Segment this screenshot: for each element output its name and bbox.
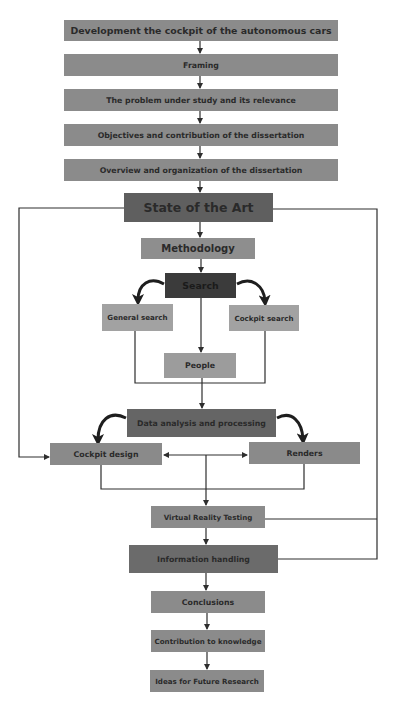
node-information-handling: Information handling <box>129 545 278 573</box>
node-ideas: Ideas for Future Research <box>150 670 264 692</box>
node-cockpit-design: Cockpit design <box>50 443 162 465</box>
node-objectives: Objectives and contribution of the disse… <box>64 124 338 146</box>
node-methodology: Methodology <box>141 238 255 259</box>
node-general-search: General search <box>102 304 173 331</box>
node-renders: Renders <box>249 442 360 464</box>
node-development: Development the cockpit of the autonomou… <box>64 20 338 41</box>
node-data-analysis: Data analysis and processing <box>127 409 276 437</box>
node-framing: Framing <box>64 54 338 76</box>
node-contribution: Contribution to knowledge <box>151 630 265 652</box>
node-overview: Overview and organization of the dissert… <box>64 159 338 181</box>
node-search: Search <box>165 273 236 298</box>
node-cockpit-search: Cockpit search <box>229 305 299 331</box>
node-conclusions: Conclusions <box>151 591 265 613</box>
node-state-of-the-art: State of the Art <box>124 193 273 222</box>
node-vr-testing: Virtual Reality Testing <box>151 506 265 528</box>
node-people: People <box>164 353 236 378</box>
node-problem: The problem under study and its relevanc… <box>64 89 338 111</box>
